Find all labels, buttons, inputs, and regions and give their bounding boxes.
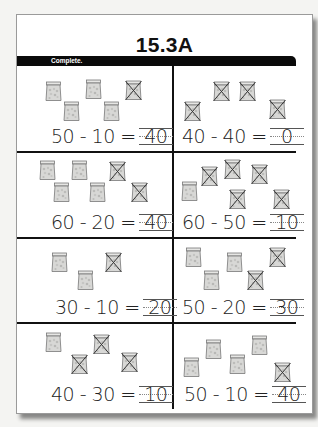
bag-of-ten-icon [183, 357, 200, 378]
crossed-out-bag-icon [269, 247, 286, 268]
bag-of-ten-icon [226, 252, 243, 273]
crossed-out-bag-icon [93, 334, 110, 355]
equation: 60 - 50 =10 [182, 211, 304, 233]
bag-of-ten-icon [71, 160, 88, 181]
bag-of-ten-icon [203, 270, 220, 291]
equation: 50 - 10 =40 [184, 383, 306, 405]
answer-field[interactable]: 40 [139, 211, 173, 233]
equation-expression: 50 - 10 = [51, 125, 136, 147]
crossed-out-bag-icon [273, 189, 290, 210]
equation-expression: 50 - 20 = [182, 296, 267, 318]
answer-field[interactable]: 10 [270, 211, 304, 233]
answer-value: 10 [275, 211, 298, 233]
instruction-text: Complete. [51, 56, 82, 66]
answer-field[interactable]: 40 [272, 383, 306, 405]
bag-of-ten-icon [251, 335, 268, 356]
equation: 40 - 40 =0 [182, 125, 304, 147]
bag-of-ten-icon [45, 332, 62, 353]
bag-of-ten-icon [77, 270, 94, 291]
crossed-out-bag-icon [201, 166, 218, 187]
bag-of-ten-icon [45, 81, 62, 102]
bag-of-ten-icon [39, 160, 56, 181]
answer-value: 0 [281, 125, 293, 147]
bag-of-ten-icon [51, 252, 68, 273]
equation: 30 - 10 =20 [55, 296, 177, 318]
equation: 50 - 20 =30 [182, 296, 304, 318]
equation-expression: 60 - 20 = [51, 211, 136, 233]
equation-expression: 60 - 50 = [182, 211, 267, 233]
bag-of-ten-icon [205, 339, 222, 360]
answer-field[interactable]: 40 [139, 125, 173, 147]
crossed-out-bag-icon [109, 161, 126, 182]
bag-of-ten-icon [85, 79, 102, 100]
page-title: 15.3A [17, 33, 312, 57]
problem-cell: 30 - 10 =20 [17, 239, 172, 322]
equation-expression: 30 - 10 = [55, 296, 140, 318]
problem-cell: 40 - 40 =0 [174, 66, 296, 151]
problem-cell: 60 - 20 =40 [17, 153, 172, 237]
problem-cell: 60 - 50 =10 [174, 153, 296, 237]
instruction-bar: Complete. [17, 56, 296, 66]
crossed-out-bag-icon [105, 252, 122, 273]
answer-field[interactable]: 30 [270, 296, 304, 318]
problem-grid: 50 - 10 =4040 - 40 =060 - 20 =4060 - 50 … [17, 66, 296, 409]
answer-value: 40 [144, 211, 167, 233]
bag-of-ten-icon [229, 354, 246, 375]
answer-value: 40 [144, 125, 167, 147]
equation: 40 - 30 =10 [51, 383, 173, 405]
answer-field[interactable]: 10 [139, 383, 173, 405]
worksheet-page: 15.3A Complete. 50 - 10 =4040 - 40 =060 … [16, 14, 313, 414]
crossed-out-bag-icon [224, 159, 241, 180]
equation-expression: 40 - 30 = [51, 383, 136, 405]
problem-cell: 50 - 10 =40 [17, 66, 172, 151]
problem-cell: 50 - 20 =30 [174, 239, 296, 322]
equation-expression: 50 - 10 = [184, 383, 269, 405]
crossed-out-bag-icon [213, 81, 230, 102]
bag-of-ten-icon [185, 247, 202, 268]
answer-field[interactable]: 0 [270, 125, 304, 147]
bag-of-ten-icon [103, 101, 120, 122]
bag-of-ten-icon [181, 181, 198, 202]
equation: 60 - 20 =40 [51, 211, 173, 233]
crossed-out-bag-icon [229, 189, 246, 210]
equation-expression: 40 - 40 = [182, 125, 267, 147]
crossed-out-bag-icon [251, 164, 268, 185]
crossed-out-bag-icon [247, 270, 264, 291]
answer-value: 20 [148, 296, 171, 318]
equation: 50 - 10 =40 [51, 125, 173, 147]
bag-of-ten-icon [89, 182, 106, 203]
crossed-out-bag-icon [125, 80, 142, 101]
crossed-out-bag-icon [131, 182, 148, 203]
answer-value: 40 [277, 383, 300, 405]
bag-of-ten-icon [63, 101, 80, 122]
answer-value: 10 [144, 383, 167, 405]
crossed-out-bag-icon [274, 362, 291, 383]
problem-cell: 50 - 10 =40 [174, 324, 296, 409]
bag-of-ten-icon [53, 182, 70, 203]
crossed-out-bag-icon [269, 99, 286, 120]
crossed-out-bag-icon [71, 354, 88, 375]
crossed-out-bag-icon [239, 81, 256, 102]
crossed-out-bag-icon [121, 352, 138, 373]
problem-cell: 40 - 30 =10 [17, 324, 172, 409]
crossed-out-bag-icon [184, 101, 201, 122]
answer-value: 30 [275, 296, 298, 318]
answer-field[interactable]: 20 [143, 296, 177, 318]
